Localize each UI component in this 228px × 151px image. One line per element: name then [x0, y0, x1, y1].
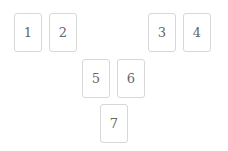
card-1[interactable]: 1 [14, 13, 42, 52]
card-label: 4 [193, 25, 201, 40]
card-label: 2 [59, 25, 67, 40]
card-label: 7 [110, 116, 118, 131]
card-6[interactable]: 6 [117, 59, 145, 98]
card-4[interactable]: 4 [183, 13, 211, 52]
card-label: 3 [158, 25, 166, 40]
card-3[interactable]: 3 [148, 13, 176, 52]
card-label: 1 [24, 25, 32, 40]
card-label: 6 [127, 71, 135, 86]
card-5[interactable]: 5 [82, 59, 110, 98]
card-label: 5 [92, 71, 100, 86]
card-7[interactable]: 7 [100, 104, 128, 143]
card-2[interactable]: 2 [49, 13, 77, 52]
